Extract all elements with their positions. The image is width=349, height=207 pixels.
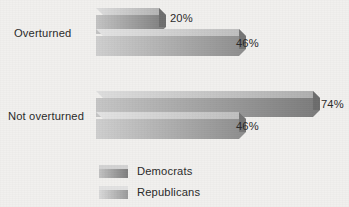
category-label-not-overturned: Not overturned <box>8 111 84 122</box>
bar-chart: Overturned Not overturned 20% <box>0 0 349 207</box>
legend-swatch-republicans <box>99 185 128 203</box>
value-label-not-overturned-democrats: 74% <box>321 99 344 110</box>
legend-label-democrats: Democrats <box>137 166 192 177</box>
value-label-overturned-democrats: 20% <box>170 13 193 24</box>
value-label-not-overturned-republicans: 46% <box>236 121 259 132</box>
legend-label-republicans: Republicans <box>137 187 200 198</box>
value-label-overturned-republicans: 46% <box>236 38 259 49</box>
bar-overturned-republicans <box>96 29 246 56</box>
legend-swatch-democrats <box>99 164 128 182</box>
category-label-overturned: Overturned <box>14 28 71 39</box>
bar-not-overturned-republicans <box>96 112 246 139</box>
